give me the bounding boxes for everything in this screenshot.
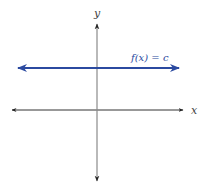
x-axis-label: x — [191, 104, 198, 117]
y-axis-label: y — [93, 7, 101, 20]
function-label: f(x) = c — [130, 52, 169, 63]
constant-function-graph: y x f(x) = c — [0, 0, 207, 195]
